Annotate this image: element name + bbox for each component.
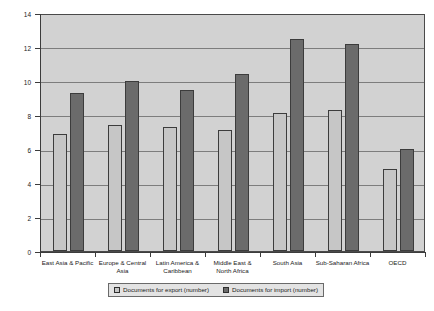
bar-import [400,149,415,251]
category-label: Middle East & North Africa [205,259,260,275]
plot-area [40,14,425,252]
category-label: Latin America & Caribbean [150,259,205,275]
legend-swatch-export-icon [114,287,120,293]
y-tick-mark [35,184,40,185]
category-label: South Asia [260,259,315,267]
y-tick-mark [35,218,40,219]
y-tick-mark [35,48,40,49]
y-axis [40,14,41,253]
legend-item-export[interactable]: Documents for export (number) [114,286,209,294]
y-tick-mark [35,116,40,117]
legend-label-import: Documents for import (number) [232,286,318,294]
y-tick-mark [35,14,40,15]
y-tick-mark [35,150,40,151]
bar-import [70,93,85,251]
legend-label-export: Documents for export (number) [123,286,209,294]
bar-import [345,44,360,251]
bar-export [273,113,288,251]
category-label: East Asia & Pacific [40,259,95,267]
x-tick-mark [315,253,316,257]
x-tick-mark [40,253,41,257]
y-tick-mark [35,82,40,83]
x-tick-mark [260,253,261,257]
y-tick-label: 12 [0,45,31,52]
bar-export [383,169,398,251]
bar-import [125,81,140,251]
category-label: OECD [370,259,425,267]
y-tick-label: 6 [0,147,31,154]
bar-export [163,127,178,251]
bars-layer [41,15,424,251]
x-tick-mark [425,253,426,257]
bar-import [180,90,195,252]
x-tick-mark [205,253,206,257]
category-label: Sub-Saharan Africa [315,259,370,267]
bar-chart: 02468101214 East Asia & PacificEurope & … [0,0,434,311]
bar-export [328,110,343,251]
y-tick-label: 10 [0,79,31,86]
bar-export [53,134,68,251]
bar-import [290,39,305,252]
x-tick-mark [370,253,371,257]
y-tick-label: 4 [0,181,31,188]
bar-export [108,125,123,251]
legend-item-import[interactable]: Documents for import (number) [223,286,318,294]
bar-export [218,130,233,251]
y-tick-label: 8 [0,113,31,120]
bar-import [235,74,250,251]
chart-legend: Documents for export (number) Documents … [108,283,324,297]
y-tick-label: 14 [0,11,31,18]
x-axis [40,252,426,253]
x-tick-mark [95,253,96,257]
category-label: Europe & Central Asia [95,259,150,275]
x-tick-mark [150,253,151,257]
legend-swatch-import-icon [223,287,229,293]
y-tick-label: 2 [0,215,31,222]
y-tick-label: 0 [0,249,31,256]
